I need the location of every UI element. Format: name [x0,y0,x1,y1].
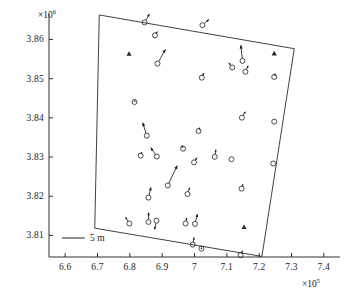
x-tick-label: 6.8 [124,262,136,272]
y-tick-label: 3.82 [8,191,44,201]
x-tick-label: 7.3 [285,262,297,272]
x-tick-label: 6.6 [59,262,71,272]
y-tick-label: 3.83 [8,152,44,162]
x-tick-label: 6.9 [156,262,168,272]
x-axis-exponent-label: ×105 [302,277,320,289]
y-tick-label: 3.85 [8,74,44,84]
scale-bar-label: 5 m [90,233,105,243]
displacement-vectors-layer [125,14,276,258]
x-tick-label: 6.7 [91,262,103,272]
x-tick-label: 7.2 [253,262,265,272]
survey-area-boundary [95,15,294,256]
axes [49,14,340,257]
x-tick-label: 7.1 [221,262,233,272]
x-tick-label: 7 [192,262,197,272]
y-tick-label: 3.86 [8,34,44,44]
reference-stations-layer [126,51,276,229]
displacement-vector-figure: 6.66.76.86.977.17.27.37.4 3.863.853.843.… [0,0,349,297]
y-axis-exponent-label: ×106 [38,8,56,20]
plot-canvas [0,0,349,297]
y-tick-label: 3.84 [8,113,44,123]
x-tick-label: 7.4 [318,262,330,272]
y-tick-label: 3.81 [8,230,44,240]
